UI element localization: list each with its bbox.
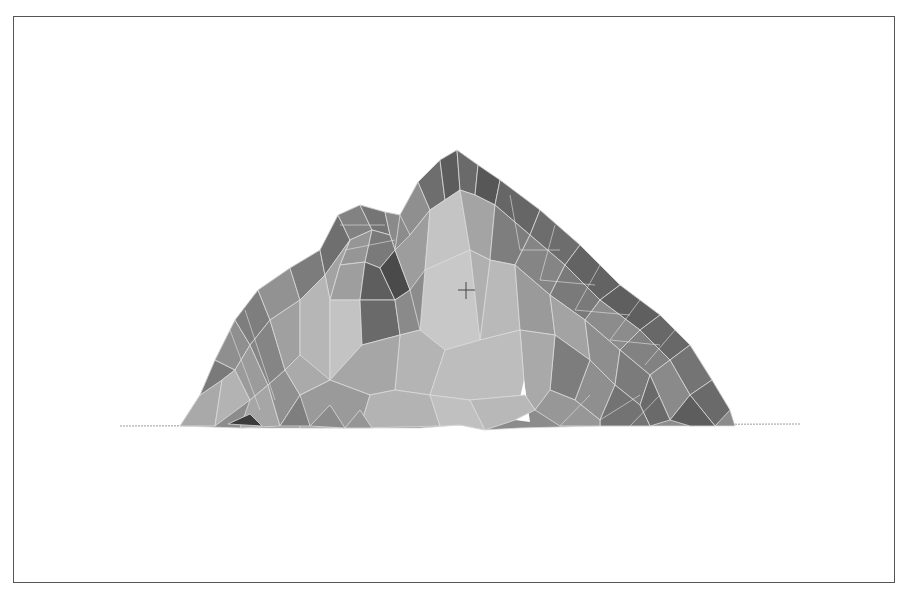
terrain-mesh xyxy=(0,0,915,605)
3d-viewport[interactable] xyxy=(0,0,915,605)
mesh-faces xyxy=(180,150,735,430)
